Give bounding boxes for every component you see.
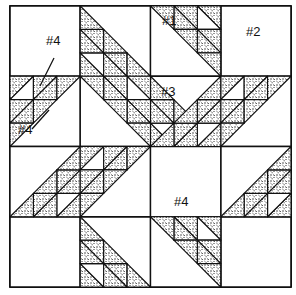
piece-label: #4 bbox=[18, 123, 32, 136]
corner-square bbox=[221, 6, 291, 76]
piece-label: #4 bbox=[46, 34, 60, 47]
piece-label: #3 bbox=[161, 85, 175, 98]
quilt-block-diagram bbox=[0, 0, 296, 295]
corner-square bbox=[10, 217, 80, 287]
piece-label: #1 bbox=[162, 14, 176, 27]
piece-label: #4 bbox=[174, 195, 188, 208]
piece-label: #2 bbox=[246, 25, 260, 38]
quilt-pieces bbox=[10, 6, 291, 287]
corner-square bbox=[221, 217, 291, 287]
